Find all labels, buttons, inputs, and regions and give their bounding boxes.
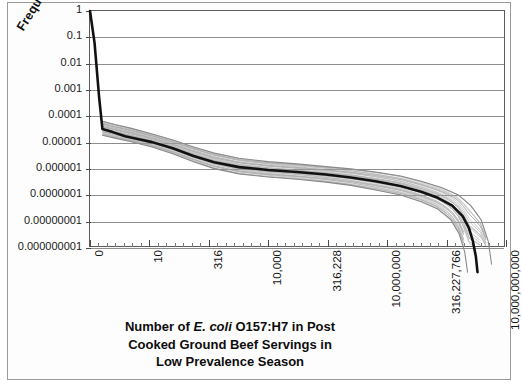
x-axis-tick-label: 10,000,000 — [391, 250, 403, 308]
series-layer — [90, 11, 504, 246]
y-axis-tick-label: 0.00000001 — [24, 215, 82, 226]
y-axis-tick-label: 0.0001 — [48, 109, 82, 120]
x-axis-title-line-2: Cooked Ground Beef Servings in — [60, 336, 400, 354]
y-axis-tick-label: 0.1 — [67, 30, 82, 41]
x-axis-tick-label: 316,227,766 — [451, 250, 463, 314]
mean-series-line — [90, 11, 478, 272]
x-axis-tick-label: 10,000 — [272, 250, 284, 285]
x-axis-title-line-3: Low Prevalence Season — [60, 353, 400, 371]
y-axis-tick-label: 1 — [76, 4, 82, 15]
x-axis-tick-label: 10,000,000,000 — [510, 250, 522, 330]
gridline — [90, 248, 504, 249]
x-axis-tick-label: 316,228 — [332, 250, 344, 292]
x-axis-tick-label: 316 — [213, 250, 225, 269]
x-axis-title-pre: Number of — [125, 319, 194, 334]
plot-area — [89, 10, 505, 247]
x-axis-title: Number of E. coli O157:H7 in Post Cooked… — [60, 318, 400, 371]
y-axis-tick-label: 0.01 — [61, 57, 82, 68]
x-axis-title-post: O157:H7 in Post — [232, 319, 335, 334]
y-axis-tick-label: 0.0000001 — [30, 188, 82, 199]
x-axis-title-species: E. coli — [194, 319, 232, 334]
y-axis-tick-label: 0.000001 — [36, 162, 82, 173]
y-axis-tick-label: 0.001 — [54, 83, 82, 94]
x-axis-tick-label: 0 — [94, 250, 106, 256]
x-axis-tick-mark — [506, 240, 507, 247]
x-axis-title-line-1: Number of E. coli O157:H7 in Post — [60, 318, 400, 336]
y-axis-tick-label: 0.00001 — [42, 136, 82, 147]
x-axis-tick-label: 10 — [153, 250, 165, 263]
y-axis-tick-mark — [86, 248, 91, 249]
